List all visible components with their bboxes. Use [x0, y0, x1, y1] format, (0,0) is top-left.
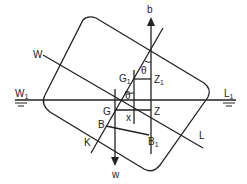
label-W1: W1 [15, 88, 28, 100]
label-b: b [147, 4, 153, 15]
label-x: x [126, 112, 131, 123]
label-G: G [103, 106, 111, 117]
label-theta-mid: θ [125, 90, 131, 101]
ship-stability-diagram: b w W L W1 L1 G G1 Z Z1 B B1 K x θ θ [0, 0, 247, 184]
water-symbol-left [15, 103, 27, 106]
label-Z: Z [154, 106, 160, 117]
inclined-waterline-WL [43, 55, 203, 148]
label-W: W [33, 49, 43, 60]
water-symbol-right [223, 103, 235, 106]
label-G1: G1 [119, 73, 131, 85]
weight-arrow-head [111, 157, 119, 166]
label-K: K [84, 137, 91, 148]
buoyancy-arrow-head [147, 17, 155, 26]
label-Z1: Z1 [154, 74, 164, 86]
BB1-shift [106, 126, 149, 135]
label-B1: B1 [148, 136, 159, 148]
theta-arc-top [145, 61, 151, 62]
label-B: B [98, 119, 105, 130]
label-L: L [199, 130, 205, 141]
label-L1: L1 [224, 88, 234, 100]
label-w: w [111, 169, 120, 180]
label-theta-top: θ [141, 65, 147, 76]
